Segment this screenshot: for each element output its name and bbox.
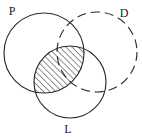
venn-diagram-canvas: P D L <box>0 0 142 137</box>
venn-diagram-figure: P D L <box>0 0 142 137</box>
set-label-d: D <box>120 6 129 20</box>
set-label-p: P <box>9 4 16 18</box>
set-label-l: L <box>64 122 71 136</box>
